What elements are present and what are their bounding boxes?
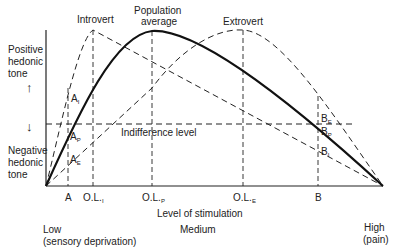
point-AI: AI <box>71 93 79 108</box>
tick-OLE: O.L.E <box>233 192 256 207</box>
tick-OLP: O.L.P <box>142 192 165 207</box>
label-negative-hedonic: hedonic <box>8 157 43 168</box>
tick-A: A <box>65 192 72 203</box>
label-indifference: Indifference level <box>121 127 196 138</box>
label-high-desc: (pain) <box>363 234 389 245</box>
label-positive-hedonic: hedonic <box>8 56 43 67</box>
label-population-average: average <box>141 16 177 27</box>
x-axis-title: Level of stimulation <box>157 208 243 219</box>
label-population: Population <box>134 5 181 16</box>
point-AE: AE <box>70 154 81 169</box>
population-curve <box>46 31 383 186</box>
tick-OLI: O.L.I <box>83 192 104 207</box>
tick-B: B <box>315 192 322 203</box>
label-positive-tone: tone <box>8 68 27 79</box>
down-arrow-icon: ↓ <box>26 121 33 132</box>
point-BP: BP <box>321 126 332 141</box>
point-BI: BI <box>321 146 329 161</box>
label-extrovert: Extrovert <box>223 16 263 27</box>
label-medium: Medium <box>180 224 216 235</box>
label-low-desc: (sensory deprivation) <box>43 236 136 247</box>
label-positive: Positive <box>8 44 43 55</box>
label-negative: Negative <box>8 145 47 156</box>
label-introvert: Introvert <box>77 14 114 25</box>
label-low: Low <box>43 224 61 235</box>
up-arrow-icon: ↑ <box>26 82 33 93</box>
label-high: High <box>364 222 385 233</box>
point-AP: AP <box>70 131 81 146</box>
label-negative-tone: tone <box>8 169 27 180</box>
